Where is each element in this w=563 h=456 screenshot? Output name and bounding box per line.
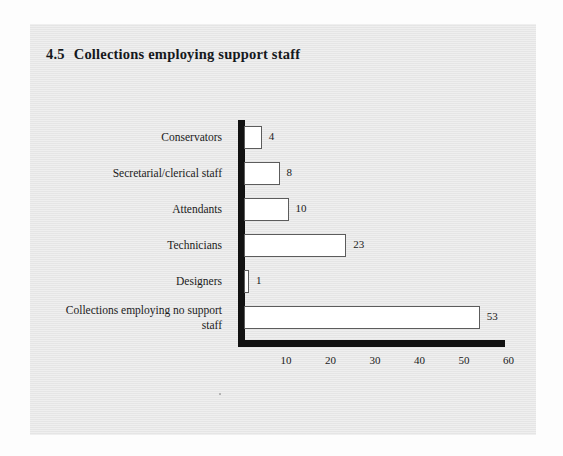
bar-chart: Conservators4Secretarial/clerical staff8… [30, 24, 536, 435]
bar-category-label: Technicians [30, 238, 222, 252]
x-axis-tick-label: 40 [414, 354, 425, 366]
bar-category-label: Conservators [30, 130, 222, 144]
bar-value-label: 53 [487, 310, 498, 322]
x-axis-tick-label: 30 [370, 354, 381, 366]
bar-row: Designers1 [30, 264, 536, 300]
bar [244, 234, 346, 257]
page-background: 4.5Collections employing support staff C… [0, 0, 563, 456]
bar-value-label: 8 [287, 166, 293, 178]
bar-category-label: Attendants [30, 202, 222, 216]
bar-row: Collections employing no supportstaff53 [30, 300, 536, 336]
x-axis-tick-label: 10 [281, 354, 292, 366]
x-axis-tick-label: 60 [503, 354, 514, 366]
x-axis-line [238, 340, 505, 347]
bar-category-label: Collections employing no supportstaff [30, 303, 222, 333]
bar-category-label: Secretarial/clerical staff [30, 166, 222, 180]
bar-row: Attendants10 [30, 192, 536, 228]
bar-value-label: 4 [269, 130, 275, 142]
bar-row: Technicians23 [30, 228, 536, 264]
bar [244, 126, 262, 149]
bar-value-label: 23 [353, 238, 364, 250]
bar-value-label: 10 [296, 202, 307, 214]
bar [244, 270, 249, 293]
page-speck [219, 393, 221, 395]
bar-category-label: Designers [30, 274, 222, 288]
bar [244, 198, 289, 221]
bar [244, 162, 280, 185]
bar-row: Conservators4 [30, 120, 536, 156]
bar [244, 306, 480, 329]
bar-value-label: 1 [256, 274, 262, 286]
x-axis-tick-label: 50 [459, 354, 470, 366]
x-axis-tick-label: 20 [325, 354, 336, 366]
bar-row: Secretarial/clerical staff8 [30, 156, 536, 192]
figure-panel: 4.5Collections employing support staff C… [30, 24, 536, 435]
